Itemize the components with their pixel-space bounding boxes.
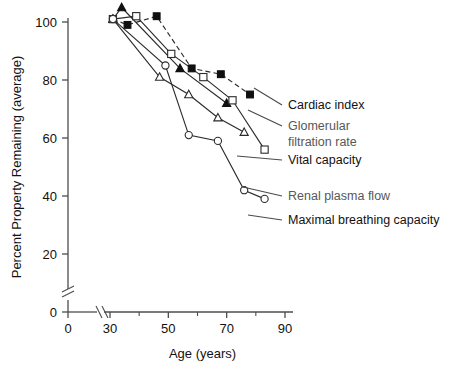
y-tick-label-100: 100 (35, 15, 57, 30)
y-tick-label-20: 20 (43, 247, 57, 262)
series-line-renal-plasma-flow (113, 16, 265, 149)
legend-label-vital-capacity: Vital capacity (288, 153, 362, 167)
legend-group: Cardiac indexGlomerularfiltration rateVi… (288, 98, 440, 227)
x-tick-label-50: 50 (161, 321, 175, 336)
marker-cardiac-index-3 (188, 65, 195, 72)
leader-line-vital-capacity (237, 156, 282, 160)
leader-line-cardiac-index (254, 88, 282, 105)
series-line-cardiac-index (113, 16, 250, 94)
marker-renal-plasma-flow-5 (261, 146, 268, 153)
marker-maximal-breathing-capacity-2 (185, 132, 192, 139)
x-tick-label-30: 30 (103, 321, 117, 336)
marker-cardiac-index-4 (217, 71, 224, 78)
series-line-maximal-breathing-capacity (113, 19, 265, 199)
y-axis-break-mark-1 (62, 291, 74, 297)
marker-renal-plasma-flow-4 (229, 97, 236, 104)
x-axis-title: Age (years) (169, 346, 236, 361)
marker-renal-plasma-flow-3 (200, 74, 207, 81)
legend-label-maximal-breathing-capacity: Maximal breathing capacity (288, 213, 440, 227)
y-tick-label-40: 40 (43, 189, 57, 204)
legend-label-cardiac-index: Cardiac index (288, 98, 365, 112)
marker-glomerular-filtration-rate-1 (118, 3, 126, 11)
x-tick-group: 030507090 (64, 312, 292, 336)
marker-vital-capacity-4 (240, 128, 248, 135)
leader-lines-group (237, 88, 282, 220)
axis-titles-group: Age (years)Percent Property Remaining (a… (9, 56, 236, 361)
marker-cardiac-index-5 (247, 91, 254, 98)
leader-line-maximal-breathing-capacity (248, 215, 282, 220)
marker-cardiac-index-1 (124, 22, 131, 29)
leader-line-glomerular-filtration-rate (248, 110, 282, 126)
series-markers-group (109, 3, 268, 202)
y-axis-title: Percent Property Remaining (average) (9, 56, 24, 279)
leader-line-renal-plasma-flow (243, 187, 282, 196)
x-tick-label-70: 70 (219, 321, 233, 336)
marker-renal-plasma-flow-1 (133, 13, 140, 20)
marker-vital-capacity-3 (214, 113, 222, 121)
marker-cardiac-index-2 (153, 13, 160, 20)
x-tick-label-0: 0 (64, 321, 71, 336)
y-tick-label-80: 80 (43, 73, 57, 88)
series-lines-group (113, 8, 265, 199)
marker-renal-plasma-flow-2 (168, 50, 175, 57)
line-chart: 030507090 020406080100 Cardiac indexGlom… (0, 0, 450, 372)
marker-maximal-breathing-capacity-0 (109, 16, 116, 23)
chart-container: 030507090 020406080100 Cardiac indexGlom… (0, 0, 450, 372)
y-tick-label-0: 0 (50, 305, 57, 320)
y-tick-label-60: 60 (43, 131, 57, 146)
marker-maximal-breathing-capacity-3 (214, 137, 221, 144)
legend-label-glomerular: Glomerular (288, 119, 350, 133)
marker-vital-capacity-2 (185, 90, 193, 98)
axes-group (62, 18, 293, 318)
legend-label-renal-plasma-flow: Renal plasma flow (288, 189, 391, 203)
marker-maximal-breathing-capacity-1 (162, 62, 169, 69)
x-tick-label-90: 90 (278, 321, 292, 336)
marker-maximal-breathing-capacity-5 (261, 195, 268, 202)
legend-label-filtration-rate: filtration rate (288, 135, 357, 149)
y-tick-group: 020406080100 (35, 15, 68, 320)
